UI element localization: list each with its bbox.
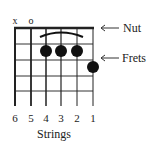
string-number: 6 xyxy=(12,112,18,124)
string-number: 5 xyxy=(28,112,34,124)
open-string-marker: o xyxy=(29,15,34,26)
finger-dot xyxy=(40,45,52,57)
string-number: 3 xyxy=(58,112,64,124)
frets-label: Frets xyxy=(122,51,146,65)
finger-dot xyxy=(71,45,83,57)
muted-string-marker: x xyxy=(13,15,18,26)
string-number: 2 xyxy=(74,112,80,124)
chord-diagram: x o Nut Frets 6 5 4 3 2 1 Strings xyxy=(0,0,158,152)
frets-arrow xyxy=(101,55,119,61)
string-number: 1 xyxy=(90,112,96,124)
nut-arrow xyxy=(101,25,119,31)
nut-label: Nut xyxy=(123,21,142,35)
string-number: 4 xyxy=(43,112,49,124)
finger-dot xyxy=(87,61,99,73)
strings-axis-label: Strings xyxy=(37,127,71,141)
string-lines xyxy=(15,28,93,106)
finger-dot xyxy=(55,45,67,57)
